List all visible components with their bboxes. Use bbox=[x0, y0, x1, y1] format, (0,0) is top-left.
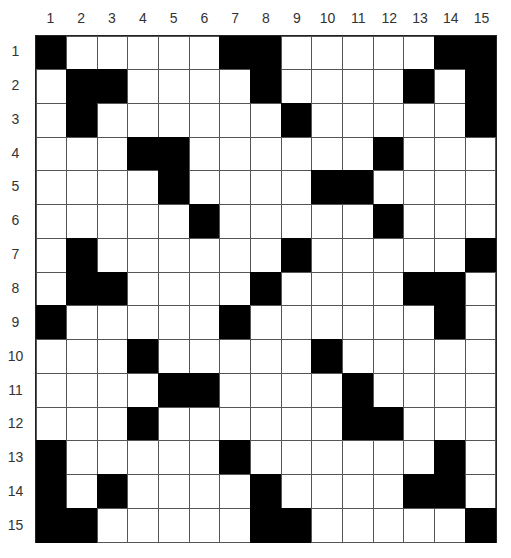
white-cell[interactable] bbox=[311, 238, 343, 273]
white-cell[interactable] bbox=[189, 238, 221, 273]
white-cell[interactable] bbox=[281, 373, 313, 408]
white-cell[interactable] bbox=[97, 137, 129, 172]
white-cell[interactable] bbox=[342, 69, 374, 104]
white-cell[interactable] bbox=[97, 339, 129, 374]
white-cell[interactable] bbox=[158, 103, 190, 138]
white-cell[interactable] bbox=[158, 508, 190, 543]
white-cell[interactable] bbox=[158, 36, 190, 71]
white-cell[interactable] bbox=[219, 170, 251, 205]
white-cell[interactable] bbox=[219, 103, 251, 138]
white-cell[interactable] bbox=[189, 305, 221, 340]
white-cell[interactable] bbox=[373, 508, 405, 543]
white-cell[interactable] bbox=[342, 508, 374, 543]
white-cell[interactable] bbox=[97, 204, 129, 239]
white-cell[interactable] bbox=[373, 339, 405, 374]
white-cell[interactable] bbox=[36, 373, 68, 408]
white-cell[interactable] bbox=[311, 305, 343, 340]
white-cell[interactable] bbox=[189, 407, 221, 442]
white-cell[interactable] bbox=[281, 305, 313, 340]
white-cell[interactable] bbox=[189, 339, 221, 374]
white-cell[interactable] bbox=[465, 137, 497, 172]
white-cell[interactable] bbox=[342, 36, 374, 71]
white-cell[interactable] bbox=[311, 103, 343, 138]
white-cell[interactable] bbox=[127, 238, 159, 273]
white-cell[interactable] bbox=[250, 440, 282, 475]
white-cell[interactable] bbox=[127, 36, 159, 71]
white-cell[interactable] bbox=[219, 238, 251, 273]
white-cell[interactable] bbox=[189, 69, 221, 104]
white-cell[interactable] bbox=[36, 272, 68, 307]
white-cell[interactable] bbox=[66, 407, 98, 442]
white-cell[interactable] bbox=[127, 204, 159, 239]
white-cell[interactable] bbox=[465, 170, 497, 205]
white-cell[interactable] bbox=[342, 137, 374, 172]
white-cell[interactable] bbox=[373, 440, 405, 475]
white-cell[interactable] bbox=[281, 137, 313, 172]
white-cell[interactable] bbox=[158, 204, 190, 239]
white-cell[interactable] bbox=[434, 238, 466, 273]
white-cell[interactable] bbox=[127, 272, 159, 307]
white-cell[interactable] bbox=[158, 339, 190, 374]
white-cell[interactable] bbox=[250, 137, 282, 172]
white-cell[interactable] bbox=[465, 407, 497, 442]
white-cell[interactable] bbox=[66, 373, 98, 408]
white-cell[interactable] bbox=[403, 407, 435, 442]
white-cell[interactable] bbox=[158, 407, 190, 442]
white-cell[interactable] bbox=[127, 440, 159, 475]
white-cell[interactable] bbox=[311, 137, 343, 172]
white-cell[interactable] bbox=[342, 474, 374, 509]
white-cell[interactable] bbox=[311, 272, 343, 307]
white-cell[interactable] bbox=[465, 272, 497, 307]
white-cell[interactable] bbox=[127, 103, 159, 138]
white-cell[interactable] bbox=[127, 305, 159, 340]
white-cell[interactable] bbox=[434, 137, 466, 172]
white-cell[interactable] bbox=[373, 373, 405, 408]
white-cell[interactable] bbox=[127, 474, 159, 509]
white-cell[interactable] bbox=[66, 440, 98, 475]
white-cell[interactable] bbox=[189, 137, 221, 172]
white-cell[interactable] bbox=[158, 305, 190, 340]
white-cell[interactable] bbox=[281, 204, 313, 239]
white-cell[interactable] bbox=[434, 103, 466, 138]
white-cell[interactable] bbox=[127, 69, 159, 104]
white-cell[interactable] bbox=[127, 373, 159, 408]
white-cell[interactable] bbox=[158, 272, 190, 307]
white-cell[interactable] bbox=[127, 508, 159, 543]
white-cell[interactable] bbox=[311, 36, 343, 71]
white-cell[interactable] bbox=[158, 69, 190, 104]
white-cell[interactable] bbox=[342, 238, 374, 273]
white-cell[interactable] bbox=[250, 238, 282, 273]
white-cell[interactable] bbox=[342, 440, 374, 475]
white-cell[interactable] bbox=[342, 103, 374, 138]
white-cell[interactable] bbox=[373, 103, 405, 138]
white-cell[interactable] bbox=[219, 137, 251, 172]
white-cell[interactable] bbox=[189, 474, 221, 509]
white-cell[interactable] bbox=[403, 103, 435, 138]
white-cell[interactable] bbox=[36, 137, 68, 172]
white-cell[interactable] bbox=[97, 103, 129, 138]
white-cell[interactable] bbox=[465, 204, 497, 239]
white-cell[interactable] bbox=[97, 238, 129, 273]
white-cell[interactable] bbox=[342, 204, 374, 239]
white-cell[interactable] bbox=[66, 170, 98, 205]
white-cell[interactable] bbox=[434, 508, 466, 543]
white-cell[interactable] bbox=[403, 36, 435, 71]
white-cell[interactable] bbox=[281, 474, 313, 509]
white-cell[interactable] bbox=[281, 36, 313, 71]
white-cell[interactable] bbox=[373, 170, 405, 205]
white-cell[interactable] bbox=[342, 272, 374, 307]
white-cell[interactable] bbox=[281, 407, 313, 442]
white-cell[interactable] bbox=[189, 440, 221, 475]
white-cell[interactable] bbox=[66, 36, 98, 71]
white-cell[interactable] bbox=[403, 204, 435, 239]
white-cell[interactable] bbox=[219, 407, 251, 442]
white-cell[interactable] bbox=[403, 170, 435, 205]
white-cell[interactable] bbox=[36, 103, 68, 138]
white-cell[interactable] bbox=[311, 204, 343, 239]
white-cell[interactable] bbox=[281, 170, 313, 205]
white-cell[interactable] bbox=[250, 373, 282, 408]
white-cell[interactable] bbox=[127, 170, 159, 205]
white-cell[interactable] bbox=[465, 474, 497, 509]
white-cell[interactable] bbox=[66, 339, 98, 374]
white-cell[interactable] bbox=[250, 305, 282, 340]
